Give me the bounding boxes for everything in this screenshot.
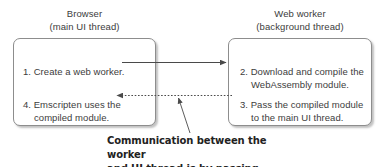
callout-leader-line <box>179 98 191 133</box>
web-worker-flow-diagram: Browser (main UI thread) Web worker (bac… <box>0 0 381 167</box>
diagram-caption-line-2: and UI thread is by passing messages. <box>107 162 307 167</box>
diagram-caption-line-1: Communication between the worker <box>107 135 266 160</box>
diagram-caption: Communication between the worker and UI … <box>107 134 307 167</box>
